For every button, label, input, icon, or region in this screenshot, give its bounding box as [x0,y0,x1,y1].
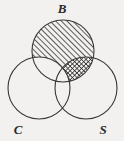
venn-diagram-figure: B C S [0,0,124,141]
venn-diagram-canvas: B C S [0,0,124,141]
set-label-s: S [99,122,106,137]
set-label-c: C [14,122,23,137]
set-label-b: B [57,1,67,16]
